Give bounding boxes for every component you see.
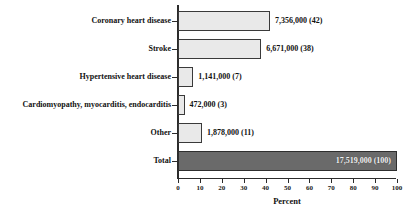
bar-value-label: 7,356,000 (42) — [275, 16, 322, 25]
x-axis-tick-label: 100 — [385, 184, 409, 192]
x-axis-tick — [222, 179, 223, 183]
bar[interactable] — [178, 123, 202, 143]
bar-value-label: 1,141,000 (7) — [198, 72, 241, 81]
x-axis-tick-label: 50 — [276, 184, 300, 192]
bar[interactable] — [178, 11, 270, 31]
x-axis-tick-label: 20 — [210, 184, 234, 192]
y-axis-tick — [172, 133, 177, 134]
x-axis-tick-label: 60 — [297, 184, 321, 192]
x-axis-line — [177, 178, 396, 179]
x-axis-tick-label: 10 — [188, 184, 212, 192]
bar-value-label: 1,878,000 (11) — [207, 128, 254, 137]
x-axis-tick-label: 90 — [363, 184, 387, 192]
bar[interactable] — [178, 39, 261, 59]
x-axis-tick — [288, 179, 289, 183]
bar-value-label: 17,519,000 (100) — [317, 156, 391, 165]
category-label: Coronary heart disease — [0, 16, 171, 25]
x-axis-tick-label: 30 — [232, 184, 256, 192]
category-label: Hypertensive heart disease — [0, 72, 171, 81]
x-axis-tick-label: 80 — [341, 184, 365, 192]
x-axis-tick-label: 70 — [319, 184, 343, 192]
x-axis-tick — [375, 179, 376, 183]
x-axis-tick — [178, 179, 179, 183]
category-label: Other — [0, 128, 171, 137]
x-axis-title: Percent — [177, 196, 397, 206]
bar-value-label: 6,671,000 (38) — [266, 44, 313, 53]
y-axis-tick — [172, 161, 177, 162]
y-axis-tick — [172, 49, 177, 50]
x-axis-tick-label: 0 — [166, 184, 190, 192]
x-axis-tick — [331, 179, 332, 183]
x-axis-tick — [309, 179, 310, 183]
x-axis-tick — [244, 179, 245, 183]
bar-chart-figure: Coronary heart disease7,356,000 (42)Stro… — [0, 0, 416, 213]
x-axis-tick — [397, 179, 398, 183]
x-axis-tick — [353, 179, 354, 183]
category-label: Cardiomyopathy, myocarditis, endocarditi… — [0, 100, 171, 109]
bar[interactable] — [178, 95, 185, 115]
y-axis-tick — [172, 21, 177, 22]
y-axis-tick — [172, 77, 177, 78]
x-axis-tick — [200, 179, 201, 183]
category-label: Stroke — [0, 44, 171, 53]
category-label: Total — [0, 156, 171, 165]
bar[interactable] — [178, 67, 193, 87]
x-axis-tick — [266, 179, 267, 183]
y-axis-tick — [172, 105, 177, 106]
bar-value-label: 472,000 (3) — [190, 100, 227, 109]
x-axis-tick-label: 40 — [254, 184, 278, 192]
